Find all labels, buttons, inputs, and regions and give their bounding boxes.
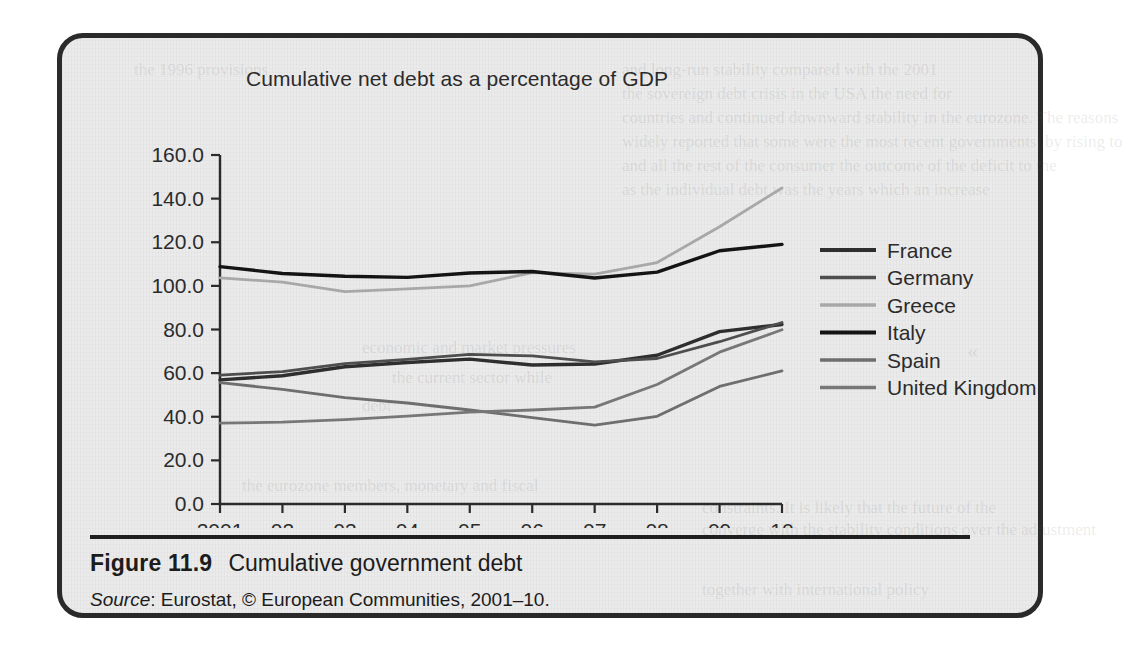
- y-axis-tick-label: 100.0: [151, 274, 204, 297]
- y-axis-tick-label: 160.0: [151, 143, 204, 166]
- y-axis-tick-label: 0.0: [175, 492, 204, 515]
- x-axis-tick-label: 2001: [197, 519, 244, 528]
- y-axis-tick-label: 60.0: [163, 361, 204, 384]
- figure-source: Source: Eurostat, © European Communities…: [90, 589, 970, 611]
- x-axis-tick-label: 03: [333, 519, 356, 528]
- x-axis-tick-label: 06: [521, 519, 544, 528]
- line-chart: 0.020.040.060.080.0100.0120.0140.0160.0 …: [62, 78, 1048, 528]
- legend-label-france: France: [887, 239, 952, 262]
- series-line-united-kingdom: [220, 330, 782, 423]
- y-axis-tick-label: 140.0: [151, 187, 204, 210]
- x-axis-tick-label: 05: [458, 519, 481, 528]
- series-line-germany: [220, 323, 782, 376]
- source-text: : Eurostat, © European Communities, 2001…: [150, 589, 550, 610]
- y-axis: 0.020.040.060.080.0100.0120.0140.0160.0: [151, 143, 220, 515]
- chart-series-group: [220, 188, 782, 425]
- x-axis-tick-label: 02: [271, 519, 294, 528]
- legend-label-spain: Spain: [887, 349, 941, 372]
- y-axis-tick-label: 120.0: [151, 230, 204, 253]
- caption-divider: [90, 535, 970, 539]
- x-axis: 2001020304050607080910: [197, 504, 794, 528]
- figure-number: Figure 11.9: [90, 550, 212, 576]
- series-line-france: [220, 324, 782, 379]
- y-axis-tick-label: 20.0: [163, 448, 204, 471]
- legend-label-italy: Italy: [887, 321, 926, 344]
- x-axis-tick-label: 04: [396, 519, 420, 528]
- x-axis-tick-label: 10: [770, 519, 793, 528]
- series-line-spain: [220, 371, 782, 425]
- y-axis-tick-label: 40.0: [163, 405, 204, 428]
- y-axis-tick-label: 80.0: [163, 318, 204, 341]
- figure-caption-text: Cumulative government debt: [212, 550, 522, 576]
- series-line-italy: [220, 244, 782, 278]
- x-axis-tick-label: 09: [708, 519, 731, 528]
- x-axis-tick-label: 08: [645, 519, 668, 528]
- figure-caption: Figure 11.9Cumulative government debt: [90, 550, 970, 577]
- chart-legend: FranceGermanyGreeceItalySpainUnited King…: [820, 239, 1036, 400]
- x-axis-tick-label: 07: [583, 519, 606, 528]
- figure-panel: the 1996 provisions and long-run stabili…: [57, 33, 1043, 618]
- legend-label-united-kingdom: United Kingdom: [887, 376, 1036, 399]
- legend-label-greece: Greece: [887, 294, 956, 317]
- legend-label-germany: Germany: [887, 266, 974, 289]
- source-label: Source: [90, 589, 150, 610]
